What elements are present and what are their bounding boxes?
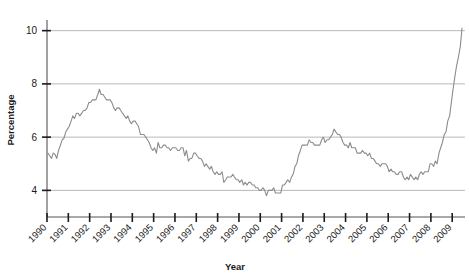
chart-container: 46810 1990199119921993199419951996199719… [0, 0, 469, 280]
y-tick-label: 6 [31, 132, 37, 143]
x-axis-title: Year [225, 261, 245, 272]
line-chart: 46810 1990199119921993199419951996199719… [0, 0, 469, 280]
y-tick-label: 10 [26, 25, 38, 36]
y-axis-title: Percentage [5, 94, 16, 145]
y-tick-label: 8 [31, 78, 37, 89]
y-tick-label: 4 [31, 185, 37, 196]
plot-area-background [47, 20, 459, 217]
